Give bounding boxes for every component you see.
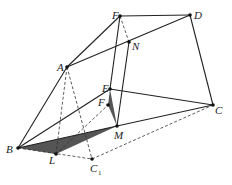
label-d: D <box>193 9 202 21</box>
label-e: E <box>101 82 109 94</box>
label-c: C <box>215 104 223 116</box>
label-c1-subscript: 1 <box>98 169 102 177</box>
label-c1: C <box>90 162 98 174</box>
label-f-mid: F <box>97 96 105 108</box>
label-a: A <box>56 61 64 73</box>
label-l: L <box>48 154 55 166</box>
geometry-diagram: F D N A E F C M B L C 1 <box>0 0 232 185</box>
label-f-top: F <box>111 9 119 21</box>
shaded-triangle-efm <box>108 89 117 126</box>
label-m: M <box>113 129 124 141</box>
label-b: B <box>6 143 13 155</box>
label-n: N <box>131 40 140 52</box>
shaded-triangle-blm <box>18 126 117 154</box>
